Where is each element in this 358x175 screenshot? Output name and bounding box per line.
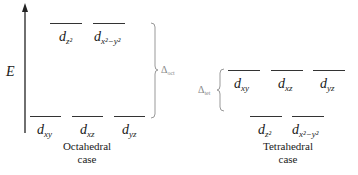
- tet-orbital-dxz: dxz: [278, 77, 293, 93]
- tet-caption: Tetrahedral case: [255, 140, 321, 166]
- oct-splitting-label: Δoct: [161, 64, 175, 76]
- tet-orbital-dz2: dz²: [258, 123, 271, 139]
- tet-level-dxz: [271, 70, 303, 71]
- oct-level-dz2: [50, 23, 82, 24]
- tet-level-dz2: [250, 116, 282, 117]
- tet-level-dx2y2: [292, 116, 324, 117]
- oct-orbital-dz2: dz²: [59, 30, 72, 46]
- oct-orbital-dxz: dxz: [80, 123, 95, 139]
- tet-bracket: [217, 69, 224, 111]
- oct-bracket: [151, 23, 158, 118]
- tet-splitting-label: Δtet: [198, 84, 210, 96]
- oct-orbital-dx2y2: dx²−y²: [94, 30, 120, 46]
- oct-level-dx2y2: [93, 23, 125, 24]
- oct-level-dxy: [30, 116, 61, 117]
- tet-orbital-dxy: dxy: [234, 77, 249, 93]
- tet-orbital-dx2y2: dx²−y²: [292, 123, 318, 139]
- oct-caption: Octahedral case: [57, 140, 117, 166]
- oct-level-dyz: [114, 116, 145, 117]
- oct-orbital-dyz: dyz: [122, 123, 137, 139]
- oct-orbital-dxy: dxy: [37, 123, 52, 139]
- tet-level-dxy: [228, 70, 260, 71]
- energy-axis-arrowhead-icon: [22, 3, 28, 12]
- oct-level-dxz: [72, 116, 103, 117]
- tet-orbital-dyz: dyz: [320, 77, 335, 93]
- tet-level-dyz: [313, 70, 345, 71]
- energy-axis-label: E: [6, 64, 15, 80]
